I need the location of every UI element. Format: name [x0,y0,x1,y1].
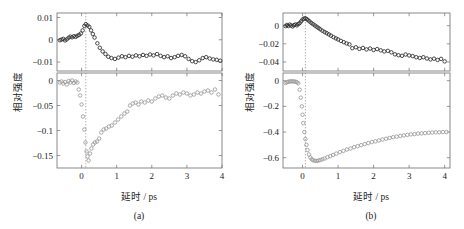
subplot-a-top: 0.010−0.01 [32,13,222,71]
x-tick-label: 0 [300,171,305,181]
data-point [213,88,217,92]
y-tick-label: −0.02 [258,39,279,49]
data-point [427,131,431,135]
data-point [299,96,303,100]
data-point [143,101,147,105]
data-point [77,88,81,92]
figure-container: 0.010−0.010−0.05−0.1−0.1501234延时 / ps相对强… [0,0,464,229]
data-point [367,141,371,145]
y-tick-label: −0.05 [32,101,53,111]
data-point [443,60,447,64]
data-point [187,57,191,61]
x-axis-label: 延时 / ps [353,191,389,202]
data-point [425,57,429,61]
data-point [413,132,417,136]
data-point [113,57,117,61]
data-point [365,48,369,52]
data-point [423,131,427,135]
data-point [441,130,445,134]
data-point [420,132,424,136]
x-tick-label: 2 [150,171,155,181]
data-point [393,53,397,57]
data-point [345,148,349,152]
data-point [359,143,363,147]
data-point [306,148,310,152]
data-series-top [58,22,222,63]
data-point [358,47,362,51]
data-point [342,149,346,153]
data-point [199,92,203,96]
data-point [89,29,93,33]
data-point [305,143,309,147]
data-point [113,121,117,125]
plot-frame [57,73,222,168]
y-axis-label: 相对强度 [244,72,255,112]
chart-panel-a: 0.010−0.010−0.05−0.1−0.1501234延时 / ps相对强… [0,0,232,229]
data-point [430,131,434,135]
data-point [98,46,102,50]
data-point [386,49,390,53]
x-tick-label: 2 [371,171,376,181]
data-point [196,91,200,95]
x-tick-label: 4 [442,171,447,181]
plot-frame [283,73,450,168]
data-point [352,145,356,149]
data-point [406,133,410,137]
data-point [80,103,84,107]
data-series-top [284,17,447,64]
y-tick-label: 0 [49,35,54,45]
subplot-b-top: 0−0.02−0.04 [258,13,450,71]
data-point [87,159,91,163]
data-point [399,134,403,138]
y-tick-label: 0 [275,21,280,31]
data-point [157,95,161,99]
subplot-b-bottom: 0−0.2−0.4−0.6 [263,73,450,168]
y-tick-label: 0 [275,76,280,86]
data-point [116,118,120,122]
y-tick-label: −0.2 [263,101,279,111]
data-point [166,55,170,59]
data-point [124,55,128,59]
data-point [400,54,404,58]
data-point [414,55,418,59]
data-point [88,152,92,156]
data-point [154,97,158,101]
data-point [192,93,196,97]
data-point [298,88,302,92]
data-point [416,132,420,136]
y-axis-label: 相对强度 [12,72,23,112]
data-point [374,140,378,144]
panel-b-svg: 0−0.02−0.040−0.2−0.4−0.601234延时 / ps相对强度… [232,0,464,229]
data-point [178,93,182,97]
data-point [182,91,186,95]
data-point [201,56,205,60]
data-point [409,133,413,137]
x-tick-label: 4 [220,171,225,181]
data-point [190,59,194,63]
data-point [81,29,85,33]
data-point [119,115,123,119]
y-tick-label: −0.04 [258,57,279,67]
data-point [422,55,426,59]
data-point [180,53,184,57]
data-point [390,51,394,55]
data-point [388,136,392,140]
data-point [429,58,433,62]
data-point [215,58,219,62]
data-point [203,90,207,94]
data-point [97,137,101,141]
data-point [85,150,89,154]
data-point [83,128,87,132]
x-tick-label: 1 [114,171,119,181]
data-point [189,94,193,98]
panel-caption: (a) [134,211,145,222]
data-point [145,54,149,58]
data-point [171,94,175,98]
data-point [303,130,307,134]
y-tick-label: 0 [49,76,54,86]
data-point [141,53,145,57]
data-point [208,57,212,61]
y-tick-label: −0.15 [32,151,53,161]
x-axis-label: 延时 / ps [121,191,157,202]
data-point [183,55,187,59]
